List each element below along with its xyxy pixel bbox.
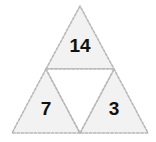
bottom-right-triangle-label: 3 [109,98,120,119]
bottom-left-triangle-label: 7 [41,98,52,119]
triangle-diagram: 14 7 3 [0,0,156,142]
triangle-figure: 14 7 3 [0,0,156,142]
top-triangle-label: 14 [69,35,91,56]
